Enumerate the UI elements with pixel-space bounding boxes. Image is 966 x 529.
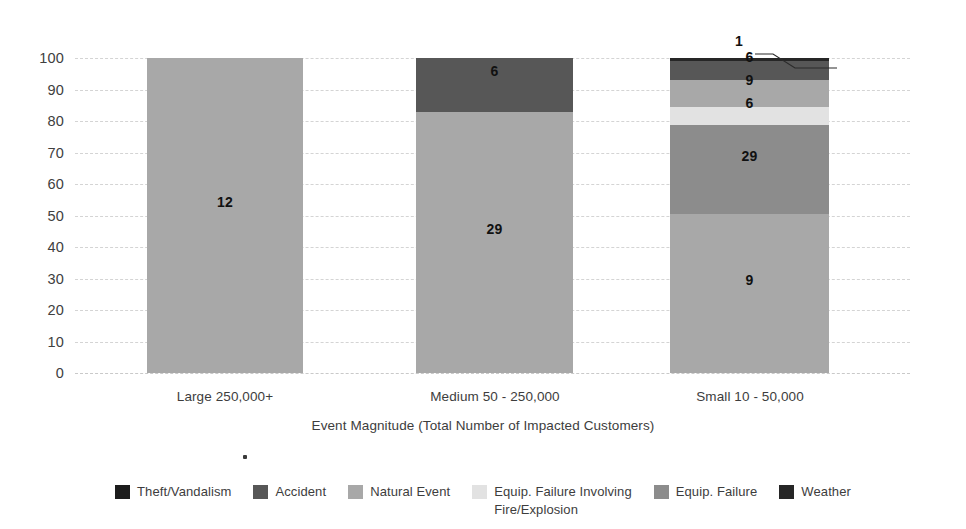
legend-item-equip-failure-fire-explosion[interactable]: Equip. Failure Involving Fire/Explosion — [472, 483, 632, 518]
legend-item-natural-event[interactable]: Natural Event — [348, 483, 450, 501]
legend-item-weather[interactable]: Weather — [779, 483, 851, 501]
legend-label: Equip. Failure Involving Fire/Explosion — [494, 483, 632, 518]
chart-legend: Theft/Vandalism Accident Natural Event E… — [0, 483, 966, 518]
x-tick-small: Small 10 - 50,000 — [600, 389, 900, 404]
y-tick-70: 70 — [4, 145, 64, 161]
y-tick-40: 40 — [4, 239, 64, 255]
legend-item-theft-vandalism[interactable]: Theft/Vandalism — [115, 483, 231, 501]
segment-label-accident: 6 — [416, 64, 573, 78]
x-tick-large: Large 250,000+ — [75, 389, 375, 404]
bar-medium[interactable]: 29 6 — [416, 58, 573, 373]
segment-natural-event[interactable] — [416, 112, 573, 374]
y-tick-30: 30 — [4, 271, 64, 287]
segment-label-equip-failure: 29 — [670, 149, 829, 163]
legend-label: Weather — [801, 483, 851, 501]
bar-small[interactable]: 9 29 6 9 6 — [670, 58, 829, 373]
gridline-0 — [75, 373, 910, 374]
y-tick-0: 0 — [4, 365, 64, 381]
callout-label-weather: 1 — [735, 34, 743, 48]
callout-leader-line — [725, 48, 835, 78]
legend-swatch-icon — [779, 485, 794, 499]
segment-label-natural-event: 12 — [147, 195, 303, 209]
legend-swatch-icon — [115, 485, 130, 499]
segment-equip-failure[interactable] — [670, 125, 829, 214]
y-tick-50: 50 — [4, 208, 64, 224]
segment-label-natural-event: 9 — [670, 273, 829, 287]
bar-large[interactable]: 12 — [147, 58, 303, 373]
segment-natural-event[interactable] — [670, 214, 829, 373]
segment-label-natural-event: 29 — [416, 222, 573, 236]
scan-artifact-dot — [243, 455, 247, 459]
legend-swatch-icon — [348, 485, 363, 499]
legend-label: Equip. Failure — [676, 483, 758, 501]
legend-swatch-icon — [654, 485, 669, 499]
segment-natural-event[interactable] — [147, 58, 303, 373]
plot-area: 12 29 6 9 29 6 9 6 1 — [75, 58, 910, 373]
stacked-bar-chart: 100 90 80 70 60 50 40 30 20 10 0 12 — [0, 0, 966, 529]
legend-item-accident[interactable]: Accident — [253, 483, 326, 501]
legend-swatch-icon — [253, 485, 268, 499]
y-tick-20: 20 — [4, 302, 64, 318]
legend-label: Theft/Vandalism — [137, 483, 231, 501]
y-tick-100: 100 — [4, 50, 64, 66]
segment-label-equip-failure-fire-explosion: 6 — [670, 96, 829, 110]
y-tick-90: 90 — [4, 82, 64, 98]
legend-label: Accident — [275, 483, 326, 501]
legend-swatch-icon — [472, 485, 487, 499]
y-tick-60: 60 — [4, 176, 64, 192]
y-tick-10: 10 — [4, 334, 64, 350]
y-tick-80: 80 — [4, 113, 64, 129]
legend-item-equip-failure[interactable]: Equip. Failure — [654, 483, 758, 501]
legend-label: Natural Event — [370, 483, 450, 501]
x-axis-title: Event Magnitude (Total Number of Impacte… — [0, 418, 966, 433]
